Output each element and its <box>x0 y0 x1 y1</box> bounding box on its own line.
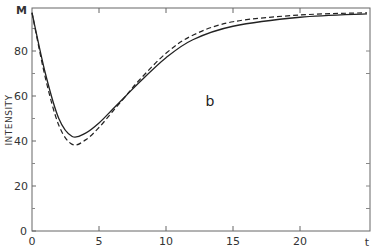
x-tick-label: 10 <box>159 235 173 248</box>
x-axis-ticks: 05101520 <box>29 8 308 248</box>
y-tick-label: 60 <box>14 90 28 103</box>
y-tick-label: 20 <box>14 180 28 193</box>
plot-frame <box>32 8 370 231</box>
y-tick-label: 80 <box>14 45 28 58</box>
chart: 020406080 05101520 INTENSITY M t b <box>0 0 378 248</box>
x-tick-label: 20 <box>293 235 307 248</box>
x-tick-label: 5 <box>96 235 103 248</box>
x-axis-variable: t <box>365 236 370 248</box>
series-dashed-line <box>32 13 367 145</box>
x-tick-label: 0 <box>29 235 36 248</box>
y-top-label: M <box>16 4 27 17</box>
y-tick-label: 0 <box>20 225 27 238</box>
panel-label: b <box>206 93 215 109</box>
y-tick-label: 40 <box>14 135 28 148</box>
series-solid-line <box>32 13 367 138</box>
y-axis-title: INTENSITY <box>4 94 14 145</box>
x-tick-label: 15 <box>226 235 240 248</box>
